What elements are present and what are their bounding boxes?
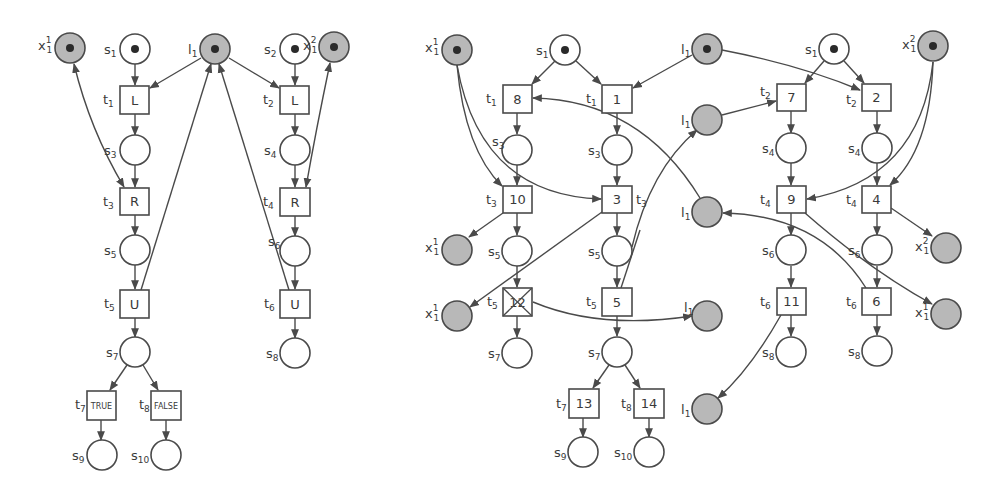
svg-text:s7: s7 bbox=[588, 345, 601, 362]
svg-text:l1: l1 bbox=[681, 402, 690, 419]
svg-text:t1: t1 bbox=[586, 91, 597, 108]
svg-text:s9: s9 bbox=[72, 448, 85, 465]
place-l1: l1 bbox=[188, 34, 230, 64]
svg-text:s7: s7 bbox=[488, 346, 501, 363]
svg-text:14: 14 bbox=[641, 396, 658, 411]
svg-text:x11: x11 bbox=[425, 37, 439, 57]
svg-text:U: U bbox=[130, 297, 140, 312]
svg-text:t6: t6 bbox=[846, 294, 857, 311]
place-s7-right-b: s7 bbox=[588, 337, 632, 367]
place-s1-right-a: s1 bbox=[536, 35, 580, 65]
place-s6: s6 bbox=[268, 234, 310, 266]
transition-t8: FALSE t8 bbox=[139, 391, 181, 420]
place-s4: s4 bbox=[264, 135, 310, 165]
svg-text:11: 11 bbox=[783, 294, 800, 309]
svg-text:s3: s3 bbox=[104, 143, 117, 160]
place-s5-right-a: s5 bbox=[488, 236, 532, 266]
svg-text:x11: x11 bbox=[915, 302, 929, 322]
svg-text:s5: s5 bbox=[588, 244, 601, 261]
svg-text:2: 2 bbox=[872, 90, 880, 105]
svg-text:s6: s6 bbox=[848, 243, 861, 260]
place-s3-right-b: s3 bbox=[588, 135, 632, 165]
svg-text:t3: t3 bbox=[486, 192, 497, 209]
transition-14: 14 t8 bbox=[621, 389, 664, 418]
place-s10-right: s10 bbox=[614, 437, 664, 467]
svg-text:U: U bbox=[290, 297, 300, 312]
token-icon bbox=[131, 45, 139, 53]
svg-text:6: 6 bbox=[872, 294, 880, 309]
svg-text:10: 10 bbox=[509, 192, 526, 207]
transition-t5: U t5 bbox=[104, 290, 149, 318]
svg-text:t4: t4 bbox=[760, 192, 771, 209]
place-s8-right-b: s8 bbox=[848, 336, 892, 366]
place-x1-2-right: x21 bbox=[902, 31, 948, 61]
svg-text:t4: t4 bbox=[846, 192, 857, 209]
place-s4-right-a: s4 bbox=[762, 133, 806, 163]
place-s8: s8 bbox=[266, 338, 310, 368]
svg-text:t5: t5 bbox=[487, 294, 498, 311]
place-x1-2 bbox=[319, 32, 349, 62]
transition-7: 7 t2 bbox=[760, 84, 806, 111]
svg-text:s6: s6 bbox=[762, 243, 775, 260]
svg-text:s1: s1 bbox=[104, 42, 117, 59]
svg-text:9: 9 bbox=[787, 192, 795, 207]
svg-text:s8: s8 bbox=[266, 346, 279, 363]
right-net: x11 s1 l1 s1 x21 s3 s3 bbox=[425, 31, 961, 467]
svg-text:s8: s8 bbox=[848, 344, 861, 361]
place-s3: s3 bbox=[104, 135, 150, 165]
svg-text:t1: t1 bbox=[486, 91, 497, 108]
svg-text:s10: s10 bbox=[131, 448, 150, 465]
token-icon bbox=[211, 45, 219, 53]
place-l1-right-d: l1 bbox=[681, 394, 722, 424]
place-s7: s7 bbox=[106, 337, 150, 367]
transition-12-crossed: 12 t5 bbox=[487, 288, 532, 316]
svg-text:t2: t2 bbox=[760, 84, 771, 101]
place-l1-right-c: l1 bbox=[684, 300, 722, 331]
transition-1: 1 t1 bbox=[586, 85, 632, 113]
svg-text:s5: s5 bbox=[488, 244, 501, 261]
transition-3: 3 t3 bbox=[602, 186, 647, 213]
token-icon bbox=[453, 46, 461, 54]
svg-text:13: 13 bbox=[576, 396, 593, 411]
svg-text:R: R bbox=[290, 195, 299, 210]
svg-text:x21: x21 bbox=[902, 34, 916, 54]
transition-11: 11 t6 bbox=[760, 288, 806, 315]
svg-text:t8: t8 bbox=[139, 397, 150, 414]
svg-text:t6: t6 bbox=[760, 294, 771, 311]
svg-text:7: 7 bbox=[787, 90, 795, 105]
svg-text:s4: s4 bbox=[762, 141, 775, 158]
svg-text:1: 1 bbox=[613, 92, 621, 107]
place-x1-1-right: x11 bbox=[425, 35, 472, 65]
svg-text:FALSE: FALSE bbox=[154, 402, 178, 411]
token-icon bbox=[830, 45, 838, 53]
svg-text:x11: x11 bbox=[425, 303, 439, 323]
transition-t2: L t2 bbox=[263, 86, 309, 114]
svg-text:l1: l1 bbox=[681, 42, 690, 59]
svg-text:s4: s4 bbox=[264, 143, 277, 160]
svg-text:s4: s4 bbox=[848, 141, 861, 158]
svg-text:t7: t7 bbox=[75, 397, 86, 414]
place-s6-right-b: s6 bbox=[848, 235, 892, 265]
svg-text:s1: s1 bbox=[805, 42, 818, 59]
place-s4-right-b: s4 bbox=[848, 133, 892, 163]
place-x1-1-right-b: x11 bbox=[425, 301, 472, 331]
svg-text:t7: t7 bbox=[556, 396, 567, 413]
place-x1-1: x11 bbox=[38, 33, 85, 63]
svg-text:t2: t2 bbox=[263, 92, 274, 109]
svg-text:s8: s8 bbox=[762, 345, 775, 362]
svg-text:L: L bbox=[131, 93, 139, 108]
svg-text:s7: s7 bbox=[106, 345, 119, 362]
transition-t4: R t4 bbox=[263, 188, 310, 216]
svg-text:l1: l1 bbox=[681, 205, 690, 222]
svg-text:t4: t4 bbox=[263, 194, 274, 211]
place-s10: s10 bbox=[131, 440, 181, 470]
svg-text:s9: s9 bbox=[554, 445, 567, 462]
svg-text:t5: t5 bbox=[104, 296, 115, 313]
svg-text:3: 3 bbox=[613, 192, 621, 207]
place-l1-right-mid-b: l1 bbox=[681, 197, 722, 227]
svg-text:x11: x11 bbox=[38, 35, 52, 55]
svg-text:t6: t6 bbox=[264, 296, 275, 313]
svg-text:t5: t5 bbox=[586, 294, 597, 311]
transition-4: 4 t4 bbox=[846, 186, 891, 213]
place-s7-right-a: s7 bbox=[488, 338, 532, 368]
